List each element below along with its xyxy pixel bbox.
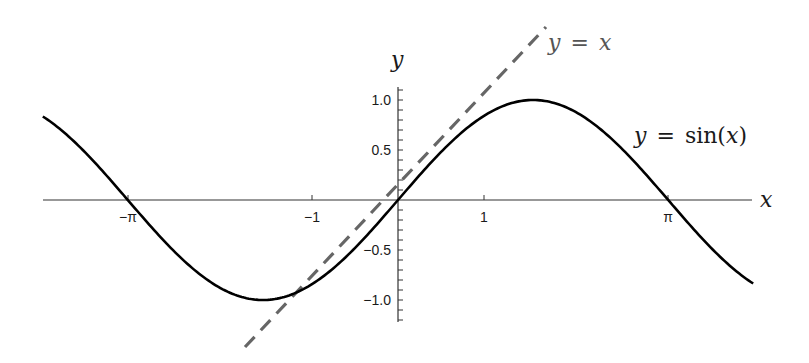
- x-tick-label-neg-1: −1: [304, 209, 320, 225]
- x-tick-label-1: 1: [480, 209, 488, 225]
- x-tick-label-neg-pi: −π: [119, 209, 137, 225]
- y-axis-label: y: [390, 47, 404, 72]
- sine-plot: −π −1 1 π 1.0 0.5 −0.5 −1.0 x y y = x y …: [0, 0, 809, 363]
- sine-curve-label: y = sin(x): [633, 123, 747, 148]
- identity-line-label: y = x: [547, 30, 612, 55]
- x-tick-label-pi: π: [663, 209, 673, 225]
- y-tick-label-0.5: 0.5: [372, 142, 392, 158]
- y-tick-label-1: 1.0: [372, 92, 392, 108]
- x-axis-label: x: [760, 187, 773, 212]
- y-tick-label-neg-0.5: −0.5: [363, 242, 391, 258]
- y-ticks: [398, 90, 403, 320]
- identity-line: [245, 27, 546, 347]
- y-tick-label-neg-1: −1.0: [363, 292, 391, 308]
